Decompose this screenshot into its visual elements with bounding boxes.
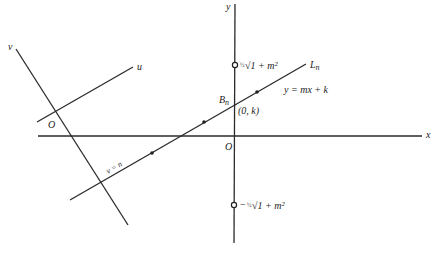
coordinate-diagram: x y O v u O Ln y = mx + k v = n Bn (0, k… [0, 0, 439, 259]
x-axis-label: x [425, 129, 431, 140]
lower-marker-sign: − [240, 199, 246, 210]
upper-marker-radical: √1 + m² [245, 60, 278, 71]
line-point-1 [150, 151, 154, 155]
u-axis-label: u [137, 61, 142, 72]
bn-label: Bn [219, 94, 229, 107]
line-name-label: Ln [309, 59, 320, 72]
lower-marker-radical: √1 + m² [252, 200, 285, 211]
lower-marker [231, 202, 236, 207]
v-equals-n-label: v = n [105, 159, 124, 175]
line-ln [70, 64, 306, 200]
u-axis [37, 67, 133, 122]
line-point-3 [255, 90, 259, 94]
intercept-coords-label: (0, k) [238, 105, 260, 117]
rotated-origin-label: O [48, 119, 55, 130]
upper-marker [232, 62, 237, 67]
y-axis-label: y [225, 1, 231, 12]
line-equation-label: y = mx + k [283, 84, 329, 95]
origin-label: O [225, 141, 232, 152]
v-axis-label: v [8, 41, 13, 52]
line-point-2 [202, 120, 206, 124]
